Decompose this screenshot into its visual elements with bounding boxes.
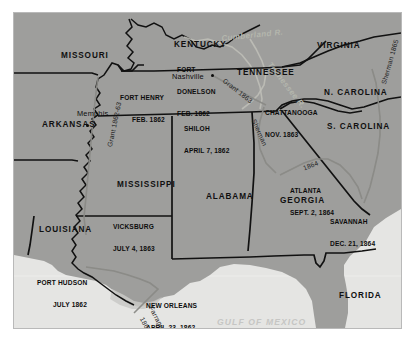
battle-place: SHILOH [184,125,229,132]
battle-label-port-hudson: PORT HUDSON JULY 1862 [37,264,87,323]
battle-date: NOV. 1863 [265,131,318,138]
battle-place: VICKSBURG [113,223,155,230]
battle-place: FORT HENRY [120,94,165,101]
state-label-florida: FLORIDA [339,291,382,300]
battle-label-atlanta: ATLANTA SEPT. 2, 1864 [290,172,334,231]
state-label-mississippi: MISSISSIPPI [117,180,176,189]
battle-date: SEPT. 2, 1864 [290,209,334,216]
city-label-memphis: Memphis [77,110,108,118]
battle-date: APRIL 23, 1862 [146,324,197,329]
battle-label-savannah: SAVANNAH DEC. 21, 1864 [330,203,375,262]
battle-date: DEC. 21, 1864 [330,240,375,247]
battle-place: PORT HUDSON [37,279,87,286]
battle-label-shiloh: SHILOH APRIL 7, 1862 [184,110,229,169]
state-label-alabama: ALABAMA [206,192,254,201]
state-label-kentucky: KENTUCKY [174,40,227,49]
state-label-arkansas: ARKANSAS [42,120,96,129]
state-label-louisiana: LOUISIANA [39,225,92,234]
battle-place-extra: DONELSON [177,88,216,95]
city-label-nashville: Nashville [172,73,204,81]
battle-label-fort-henry: FORT HENRY FEB. 1862 [120,79,165,138]
battle-place: SAVANNAH [330,218,375,225]
state-label-tennessee: TENNESSEE [237,68,295,77]
battle-date: APRIL 7, 1862 [184,147,229,154]
civil-war-map-figure: Cumberland R. Tennessee R. MISSOURI KENT… [0,0,415,341]
battle-place: CHATTANOOGA [265,109,318,116]
battle-place: ATLANTA [290,187,334,194]
state-label-n-carolina: N. CAROLINA [324,88,388,97]
state-label-missouri: MISSOURI [61,51,109,60]
map-frame: Cumberland R. Tennessee R. MISSOURI KENT… [13,12,402,329]
battle-date: JULY 4, 1863 [113,245,155,252]
state-label-s-carolina: S. CAROLINA [327,122,390,131]
map-canvas: Cumberland R. Tennessee R. MISSOURI KENT… [14,13,401,328]
battle-label-vicksburg: VICKSBURG JULY 4, 1863 [113,208,155,267]
state-label-virginia: VIRGINIA [317,41,361,50]
water-label-gulf-of-mexico: GULF OF MEXICO [217,318,306,328]
battle-date: JULY 1862 [37,301,87,308]
battle-date: FEB. 1862 [120,116,165,123]
battle-label-chattanooga: CHATTANOOGA NOV. 1863 [265,94,318,153]
